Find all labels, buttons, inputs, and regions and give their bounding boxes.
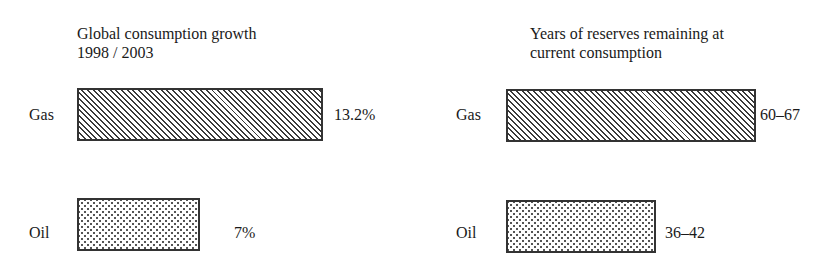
bar-oil xyxy=(506,200,656,253)
value-label-gas: 60–67 xyxy=(760,106,800,124)
chart-title-line-1: Years of reserves remaining at xyxy=(530,24,724,43)
category-label-gas: Gas xyxy=(456,106,481,124)
consumption-growth-chart: Global consumption growth 1998 / 2003 Ga… xyxy=(0,0,420,263)
bar-oil xyxy=(77,198,200,251)
value-label-oil: 36–42 xyxy=(665,224,705,242)
chart-title: Years of reserves remaining at current c… xyxy=(530,24,724,62)
value-label-oil: 7% xyxy=(234,224,255,242)
category-label-gas: Gas xyxy=(29,106,54,124)
chart-title: Global consumption growth 1998 / 2003 xyxy=(77,24,257,62)
bar-gas xyxy=(506,89,756,142)
chart-title-line-1: Global consumption growth xyxy=(77,24,257,43)
reserves-remaining-chart: Years of reserves remaining at current c… xyxy=(420,0,838,263)
chart-title-line-2: current consumption xyxy=(530,43,724,62)
category-label-oil: Oil xyxy=(29,224,49,242)
value-label-gas: 13.2% xyxy=(334,106,375,124)
chart-title-line-2: 1998 / 2003 xyxy=(77,43,257,62)
category-label-oil: Oil xyxy=(456,224,476,242)
bar-gas xyxy=(77,88,323,141)
